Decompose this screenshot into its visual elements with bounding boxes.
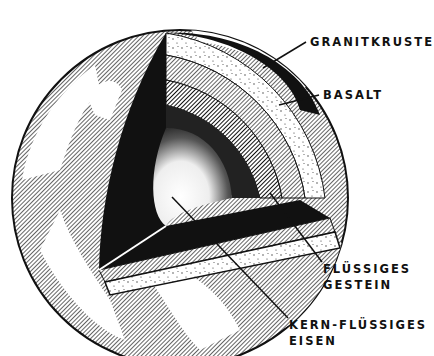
- label-fluessiges-gestein-1: FLÜSSIGES: [323, 262, 411, 277]
- label-kern-2: EISEN: [289, 334, 337, 349]
- label-fluessiges-gestein-2: GESTEIN: [323, 278, 392, 293]
- label-granitkruste: GRANITKRUSTE: [310, 35, 434, 50]
- label-basalt: BASALT: [323, 88, 383, 103]
- label-kern-1: KERN-FLÜSSIGES: [289, 318, 427, 333]
